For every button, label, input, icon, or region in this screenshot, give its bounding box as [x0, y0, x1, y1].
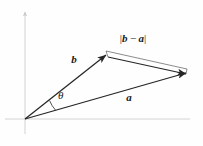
- magnitude-label-group: |b−a|: [120, 32, 147, 44]
- vector-a-label: a: [126, 91, 132, 103]
- vector-b-label: b: [71, 53, 77, 65]
- figure-background: [0, 0, 203, 146]
- angle-theta-label: θ: [58, 89, 64, 101]
- magnitude-b: b: [122, 32, 128, 44]
- magnitude-minus: −: [130, 32, 136, 44]
- magnitude-bar-right: |: [144, 32, 146, 44]
- vector-diagram-figure: b a |b−a| θ: [0, 0, 203, 146]
- magnitude-label: |b−a|: [120, 32, 147, 44]
- vector-diagram-canvas: b a |b−a| θ: [0, 0, 203, 146]
